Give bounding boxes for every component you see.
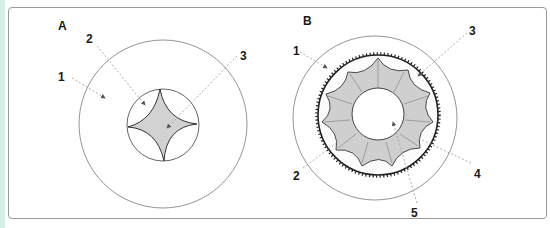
callout-a-3: 3 <box>240 49 247 63</box>
figure-diagram: A 1 2 3 B <box>0 0 550 228</box>
callout-a-1: 1 <box>58 70 65 84</box>
callout-b-4: 4 <box>474 167 481 181</box>
panel-b: B 1 2 3 4 5 <box>293 14 481 220</box>
four-point-star <box>128 89 197 161</box>
callout-a-2: 2 <box>86 32 93 46</box>
callout-b-1: 1 <box>293 44 300 58</box>
callout-b-3: 3 <box>469 24 476 38</box>
panel-b-label: B <box>303 14 312 28</box>
panel-a-label: A <box>58 19 67 33</box>
callout-b-5: 5 <box>411 206 418 220</box>
callout-b-2: 2 <box>293 169 300 183</box>
panel-a: A 1 2 3 <box>58 19 247 208</box>
